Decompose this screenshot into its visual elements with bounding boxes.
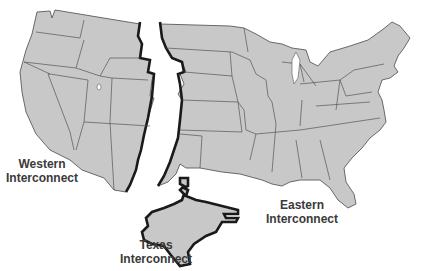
eastern-interconnect-region	[158, 22, 410, 208]
us-interconnect-map	[0, 0, 433, 271]
eastern-interconnect-label: Eastern Interconnect	[266, 198, 338, 226]
western-label-line2: Interconnect	[6, 171, 78, 185]
eastern-label-line2: Interconnect	[266, 212, 338, 226]
western-label-line1: Western	[6, 157, 78, 171]
texas-label-line2: Interconnect	[120, 252, 192, 266]
eastern-label-line1: Eastern	[266, 198, 338, 212]
texas-label-line1: Texas	[120, 238, 192, 252]
western-interconnect-label: Western Interconnect	[6, 157, 78, 185]
texas-interconnect-label: Texas Interconnect	[120, 238, 192, 266]
